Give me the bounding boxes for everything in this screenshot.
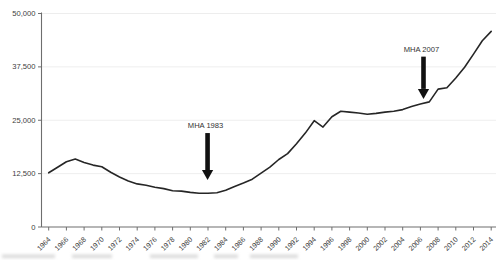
x-tick-label: 1988 (247, 235, 265, 253)
x-tick-label: 1966 (53, 235, 71, 253)
y-tick-label: 25,000 (12, 116, 35, 125)
x-tick-label: 1974 (123, 235, 141, 253)
annotation: MHA 1983 (188, 121, 223, 180)
y-tick-label: 0 (31, 223, 35, 232)
x-tick-label: 1980 (177, 235, 195, 253)
annotation-arrow-head (202, 170, 213, 180)
x-tick-label: 1964 (35, 235, 53, 253)
y-tick-label: 37,500 (12, 62, 35, 71)
smudge-blob (150, 255, 198, 259)
x-tick-label: 2010 (442, 235, 460, 253)
x-tick-label: 1982 (194, 235, 212, 253)
data-line (49, 31, 492, 193)
smudge-blob (2, 255, 55, 259)
annotation-arrow-head (418, 89, 429, 99)
annotation-arrow-shaft (421, 57, 426, 89)
x-tick-label: 1998 (336, 235, 354, 253)
annotation-arrow-shaft (205, 133, 210, 170)
x-tick-label: 2012 (460, 235, 478, 253)
x-tick-label: 1976 (141, 235, 159, 253)
x-tick-label: 1984 (212, 235, 230, 253)
x-tick-label: 1972 (106, 235, 124, 253)
x-tick-label: 1994 (300, 235, 318, 253)
x-tick-label: 2004 (389, 235, 407, 253)
x-tick-label: 1986 (230, 235, 248, 253)
chart-area: 012,50025,00037,50050,000196419661968197… (0, 0, 504, 264)
annotation-label: MHA 1983 (188, 121, 223, 130)
annotation: MHA 2007 (404, 45, 439, 99)
smudge-blob (250, 255, 298, 259)
data-series (49, 31, 492, 193)
x-tick-label: 1968 (70, 235, 88, 253)
x-tick-label: 2014 (477, 235, 495, 253)
smudge-blob (72, 255, 112, 259)
gridlines (42, 14, 497, 174)
x-tick-label: 2008 (424, 235, 442, 253)
y-tick-label: 12,500 (12, 169, 35, 178)
y-tick-label: 50,000 (12, 9, 35, 18)
annotation-label: MHA 2007 (404, 45, 439, 54)
x-tick-label: 1996 (318, 235, 336, 253)
cropped-caption-smudge (2, 255, 298, 259)
x-tick-label: 2006 (407, 235, 425, 253)
x-tick-label: 2002 (371, 235, 389, 253)
annotations: MHA 1983MHA 2007 (188, 45, 439, 180)
smudge-blob (214, 255, 238, 259)
line-chart: 012,50025,00037,50050,000196419661968197… (0, 0, 504, 264)
x-tick-label: 1970 (88, 235, 106, 253)
x-tick-label: 1990 (265, 235, 283, 253)
x-tick-label: 1978 (159, 235, 177, 253)
x-tick-label: 2000 (354, 235, 372, 253)
x-tick-label: 1992 (283, 235, 301, 253)
